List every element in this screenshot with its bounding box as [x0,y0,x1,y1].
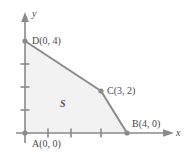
figure-graphics [0,0,187,163]
coordinate-plane-figure: y x D(0, 4) C(3, 2) B(4, 0) A(0, 0) S [0,0,187,163]
y-axis-arrowhead [21,12,29,22]
vertex-dot-b [124,130,129,135]
vertex-label-a: A(0, 0) [32,139,61,149]
vertex-label-c: C(3, 2) [107,86,135,96]
vertex-label-d: D(0, 4) [32,36,61,46]
x-axis-arrowhead [163,129,174,137]
vertex-dot-d [22,38,27,43]
region-label-s: S [60,99,66,109]
x-axis-label: x [176,128,180,138]
vertex-dot-c [98,88,103,93]
vertex-dot-a [22,130,27,135]
y-axis-label: y [32,9,36,19]
vertex-label-b: B(4, 0) [132,119,160,129]
